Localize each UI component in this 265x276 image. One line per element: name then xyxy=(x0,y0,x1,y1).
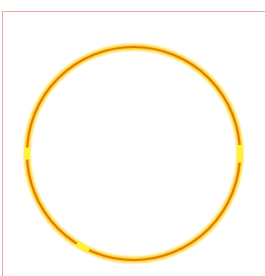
circle-drawing xyxy=(0,0,265,276)
circle-outline xyxy=(27,47,240,260)
highlight-bottom-left xyxy=(77,244,89,251)
drawing-canvas xyxy=(0,0,265,276)
highlight-segments xyxy=(27,145,240,250)
